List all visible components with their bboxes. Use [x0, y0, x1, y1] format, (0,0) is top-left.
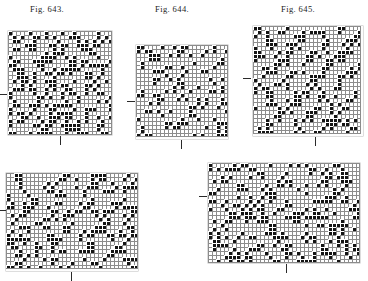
fig-lower-right-grid — [208, 163, 360, 263]
fig-lower-right-repeat-tick-bottom — [286, 264, 287, 273]
fig-lower-left-repeat-tick-bottom — [71, 272, 72, 281]
fig-644 — [136, 45, 228, 139]
fig-645-repeat-tick-bottom — [315, 137, 316, 146]
fig-643-caption: Fig. 643. — [30, 4, 64, 14]
fig-lower-left-grid — [6, 173, 138, 271]
fig-lower-right — [208, 163, 360, 263]
fig-645-pattern-canvas — [253, 26, 361, 134]
fig-643-grid — [8, 31, 112, 135]
fig-lower-left — [6, 173, 138, 271]
fig-643 — [8, 31, 112, 135]
fig-644-grid — [136, 45, 228, 139]
fig-643-repeat-tick-bottom — [60, 136, 61, 145]
fig-644-caption: Fig. 644. — [155, 4, 189, 14]
fig-644-repeat-tick-bottom — [181, 140, 182, 149]
fig-645 — [253, 26, 363, 136]
fig-lower-left-pattern-canvas — [6, 173, 138, 269]
fig-645-grid — [253, 26, 363, 136]
fig-644-repeat-tick-left — [127, 101, 135, 102]
fig-645-caption: Fig. 645. — [281, 4, 315, 14]
fig-644-pattern-canvas — [136, 45, 228, 137]
fig-643-pattern-canvas — [8, 31, 112, 135]
fig-645-repeat-tick-left — [243, 78, 251, 79]
fig-lower-left-repeat-tick-left — [0, 210, 6, 211]
fig-lower-right-pattern-canvas — [208, 163, 360, 263]
fig-643-repeat-tick-left — [0, 94, 7, 95]
fig-lower-right-repeat-tick-left — [199, 196, 207, 197]
